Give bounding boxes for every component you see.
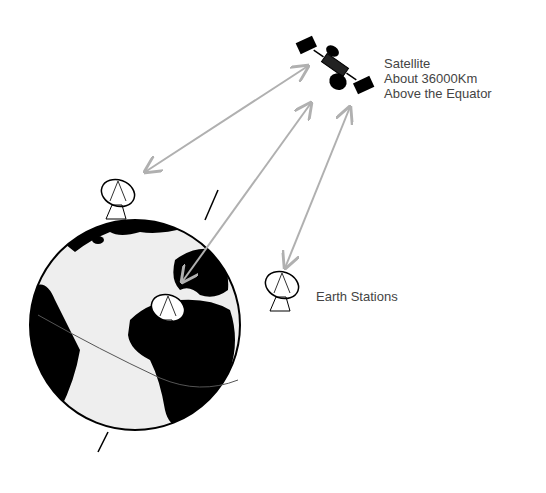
satellite-label-line-1: Satellite [384, 56, 492, 71]
link-arrow-1 [145, 66, 308, 172]
satellite-label: Satellite About 36000Km Above the Equato… [384, 56, 492, 101]
satellite-label-line-3: Above the Equator [384, 86, 492, 101]
satellite-label-line-2: About 36000Km [384, 71, 492, 86]
earth-station-1 [98, 175, 139, 219]
earth-station-3 [262, 267, 303, 311]
link-arrow-3 [285, 107, 350, 268]
satellite-diagram: Satellite About 36000Km Above the Equato… [0, 0, 546, 493]
link-arrow-2 [182, 103, 311, 282]
earth-stations-label: Earth Stations [316, 289, 398, 304]
satellite-icon [287, 27, 380, 107]
